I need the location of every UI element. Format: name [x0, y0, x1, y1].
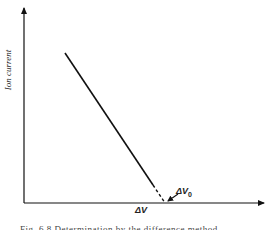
- extrapolation-line: [153, 185, 165, 203]
- diagram-canvas: [0, 0, 280, 230]
- intercept-label-subscript: 0: [188, 191, 192, 198]
- y-axis-label: Ion current: [3, 40, 13, 100]
- measured-line: [65, 53, 153, 185]
- x-axis-label: ΔV: [135, 205, 147, 215]
- figure: Ion current ΔV ΔV0 Fig. 6.8 Determinatio…: [0, 0, 280, 230]
- intercept-label-main: ΔV: [176, 186, 188, 196]
- intercept-label: ΔV0: [176, 186, 192, 198]
- figure-caption: Fig. 6.8 Determination by the difference…: [20, 224, 280, 230]
